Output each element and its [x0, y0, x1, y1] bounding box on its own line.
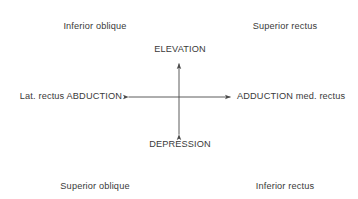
label-elevation: ELEVATION — [154, 44, 206, 55]
label-inferior-oblique: Inferior oblique — [63, 21, 126, 32]
label-superior-oblique: Superior oblique — [60, 181, 129, 192]
label-adduction-medial-rectus: ADDUCTION med. rectus — [237, 91, 345, 102]
label-superior-rectus: Superior rectus — [253, 21, 318, 32]
label-abduction-lateral-rectus: Lat. rectus ABDUCTION — [20, 91, 122, 102]
ocular-movement-diagram: Inferior oblique Superior rectus ELEVATI… — [0, 0, 358, 199]
label-inferior-rectus: Inferior rectus — [256, 181, 314, 192]
label-depression: DEPRESSION — [149, 139, 211, 150]
